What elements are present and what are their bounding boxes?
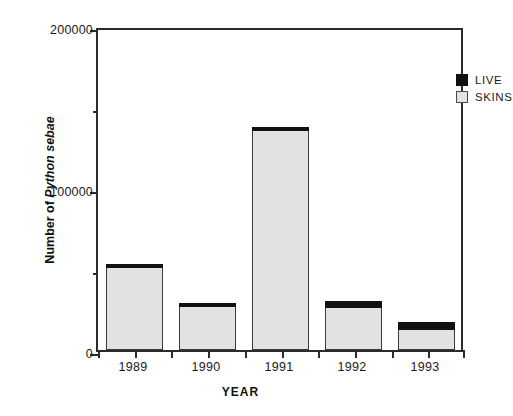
bar-1989[interactable] (106, 264, 163, 350)
legend-item-live[interactable]: LIVE (456, 74, 513, 86)
x-tick (208, 350, 210, 358)
x-tick (428, 350, 430, 358)
y-tick-minor (93, 111, 98, 113)
chart-legend: LIVE SKINS (456, 74, 513, 108)
x-tick (463, 350, 465, 358)
bar-segment-skins (325, 308, 382, 350)
x-axis-title: YEAR (0, 385, 481, 399)
x-tick (171, 350, 173, 358)
bar-segment-live (398, 322, 455, 330)
x-tick-label-1991: 1991 (264, 360, 293, 374)
x-tick-label-1992: 1992 (337, 360, 366, 374)
y-axis-title: Number of Python sebae (43, 25, 57, 355)
y-axis-title-species: Python sebae (43, 116, 57, 197)
x-tick (392, 350, 394, 358)
plot-area: 0 100000 200000 (96, 28, 463, 352)
y-tick-label: 0 (86, 347, 93, 361)
x-tick-label-1989: 1989 (118, 360, 147, 374)
bar-1993[interactable] (398, 322, 455, 350)
legend-label: SKINS (475, 91, 513, 103)
legend-label: LIVE (475, 74, 502, 86)
legend-item-skins[interactable]: SKINS (456, 91, 513, 103)
x-tick (98, 350, 100, 358)
x-tick (318, 350, 320, 358)
bar-1990[interactable] (179, 303, 236, 350)
x-tick (245, 350, 247, 358)
black-square-icon (456, 74, 468, 86)
bar-1991[interactable] (252, 127, 309, 350)
bar-1992[interactable] (325, 301, 382, 350)
bar-segment-skins (252, 131, 309, 350)
x-tick-label-1993: 1993 (410, 360, 439, 374)
y-axis-title-prefix: Number of (43, 198, 57, 264)
bar-segment-skins (106, 268, 163, 350)
x-tick-label-1990: 1990 (191, 360, 220, 374)
bar-segment-live (325, 301, 382, 308)
gray-square-icon (456, 91, 468, 103)
y-tick-minor (93, 273, 98, 275)
x-tick (135, 350, 137, 358)
x-tick (282, 350, 284, 358)
x-tick (355, 350, 357, 358)
bar-segment-skins (398, 330, 455, 350)
bar-segment-skins (179, 307, 236, 350)
